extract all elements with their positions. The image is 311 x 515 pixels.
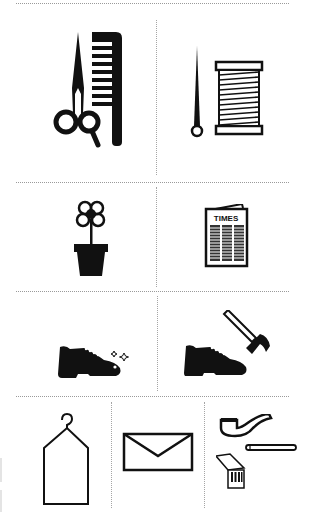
card-haircut[interactable] xyxy=(52,28,128,150)
column-divider-row2 xyxy=(156,187,157,287)
page-edge-mark xyxy=(0,458,2,482)
card-mail[interactable] xyxy=(122,432,194,472)
scissors-comb-icon xyxy=(52,28,128,150)
shoe-hammer-icon xyxy=(184,310,270,376)
card-shoe-repair[interactable] xyxy=(184,310,270,376)
card-newspaper[interactable]: TIMES xyxy=(204,204,250,268)
card-tobacco[interactable] xyxy=(216,414,298,494)
card-sewing[interactable] xyxy=(188,44,264,140)
pipe-cigarette-matches-icon xyxy=(216,414,298,494)
needle-thread-icon xyxy=(188,44,264,140)
column-divider-row3 xyxy=(157,296,158,391)
shiny-shoe-icon xyxy=(56,343,130,379)
envelope-icon xyxy=(122,432,194,472)
card-florist[interactable] xyxy=(72,200,112,276)
row-divider-2 xyxy=(16,291,289,292)
row-divider-3 xyxy=(16,396,289,397)
newspaper-masthead: TIMES xyxy=(214,214,239,223)
row-divider-1 xyxy=(16,182,289,183)
column-divider-row1 xyxy=(156,20,157,175)
card-dry-cleaning[interactable] xyxy=(42,412,90,506)
row-divider-top xyxy=(16,3,289,4)
card-shoe-shine[interactable] xyxy=(56,343,130,379)
newspaper-icon: TIMES xyxy=(204,204,250,268)
column-divider-row4-b xyxy=(204,402,205,508)
column-divider-row4-a xyxy=(111,402,112,508)
flower-pot-icon xyxy=(72,200,112,276)
page-edge-mark xyxy=(0,490,2,512)
garment-hanger-icon xyxy=(42,412,90,506)
